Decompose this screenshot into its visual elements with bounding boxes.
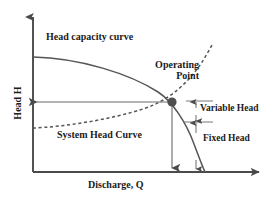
system-head-curve-label: System Head Curve xyxy=(57,130,142,140)
fixed-head-label: Fixed Head xyxy=(203,134,250,144)
pump-curve-figure: Head capacity curve System Head Curve Op… xyxy=(0,0,277,206)
variable-head-label: Variable Head xyxy=(200,104,259,114)
operating-point-label-line2: Point xyxy=(176,70,199,81)
operating-point-marker xyxy=(167,97,176,106)
y-axis-label: Head H xyxy=(13,77,23,129)
head-capacity-curve-label: Head capacity curve xyxy=(46,32,133,42)
system-head-curve xyxy=(33,43,213,128)
x-axis-label: Discharge, Q xyxy=(88,180,144,190)
operating-point-label-line1: Operating xyxy=(155,59,199,70)
operating-point-label: OperatingPoint xyxy=(137,60,199,82)
